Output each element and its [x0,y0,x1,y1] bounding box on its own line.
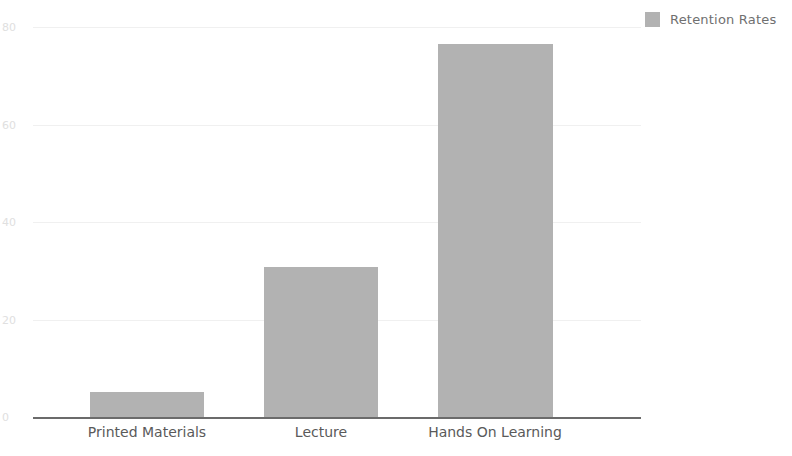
x-axis-line [33,417,641,419]
x-label-hands-on-learning: Hands On Learning [405,424,585,441]
bar-hands-on-learning[interactable] [438,44,553,417]
bar-printed-materials[interactable] [90,392,204,417]
y-tick-label-60: 60 [2,120,26,131]
bar-chart: 80 60 40 20 0 Printed Materials Lecture … [0,0,792,456]
x-label-printed-materials: Printed Materials [57,424,237,441]
y-tick-label-40: 40 [2,217,26,228]
y-tick-label-0: 0 [2,412,26,423]
legend: Retention Rates [645,12,776,27]
gridline-80 [33,27,641,28]
bar-lecture[interactable] [264,267,378,417]
legend-swatch-icon [645,12,660,27]
y-tick-label-20: 20 [2,315,26,326]
x-label-lecture: Lecture [231,424,411,441]
legend-label-retention-rates: Retention Rates [670,12,776,27]
y-tick-label-80: 80 [2,22,26,33]
